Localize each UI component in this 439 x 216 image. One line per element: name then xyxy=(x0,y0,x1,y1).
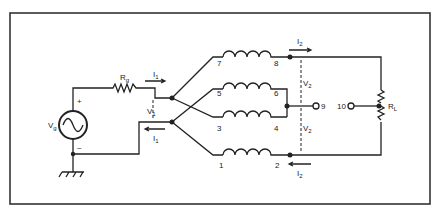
rl-label: RL xyxy=(388,102,398,112)
terminal-7: 7 xyxy=(217,59,222,68)
terminal-9: 9 xyxy=(321,102,326,111)
ground-icon xyxy=(59,154,84,177)
winding-3-4-icon xyxy=(223,111,287,117)
i1-bottom-label: I1 xyxy=(153,134,159,144)
terminal-6: 6 xyxy=(274,89,279,98)
v1-label: V1 xyxy=(147,107,156,117)
terminal-1: 1 xyxy=(219,161,224,170)
i2-top-label: I2 xyxy=(297,37,303,47)
v2-bottom-label: V2 xyxy=(303,124,312,134)
terminal-5: 5 xyxy=(217,89,222,98)
winding-1-2-icon xyxy=(223,149,290,155)
ac-source-icon xyxy=(59,111,87,139)
terminal-3: 3 xyxy=(217,124,222,133)
i2-arrow-right-icon xyxy=(289,48,311,52)
terminal-8: 8 xyxy=(274,59,279,68)
v2-top-label: V2 xyxy=(303,79,312,89)
source-plus: + xyxy=(77,97,82,106)
terminal-9-node xyxy=(313,103,319,109)
terminal-10-node xyxy=(348,103,354,109)
terminal-10: 10 xyxy=(337,102,346,111)
rg-label: Rg xyxy=(120,73,129,83)
terminal-4: 4 xyxy=(274,124,279,133)
terminal-2: 2 xyxy=(275,161,280,170)
i1-top-label: I1 xyxy=(153,70,159,80)
i1-arrow-left-icon xyxy=(145,127,165,131)
i2-bottom-label: I2 xyxy=(297,169,303,179)
source-minus: – xyxy=(77,143,82,152)
i2-arrow-left-icon xyxy=(289,162,311,166)
circuit-diagram: + – Vg Rg I1 I1 V1 7 8 5 6 3 4 1 2 9 10 xyxy=(0,0,439,216)
source-label: Vg xyxy=(48,121,57,131)
winding-7-8-icon xyxy=(223,51,290,57)
